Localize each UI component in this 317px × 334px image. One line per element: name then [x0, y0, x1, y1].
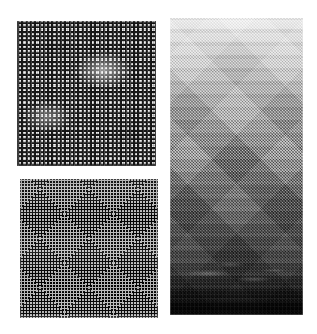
panel-grid-edge-shading [17, 21, 156, 166]
figure-root [0, 0, 317, 334]
panel-dither-edge-shading [20, 179, 158, 318]
panel-vertical-gradient-halftone [170, 18, 303, 315]
gradient-base-ramp [170, 18, 303, 315]
panel-coarse-grid-halftone [17, 21, 156, 166]
panel-dither-paper-edge [20, 179, 158, 318]
panel-grid-paper-edge [17, 21, 156, 166]
panel-fine-checkerboard-dither [20, 179, 158, 318]
